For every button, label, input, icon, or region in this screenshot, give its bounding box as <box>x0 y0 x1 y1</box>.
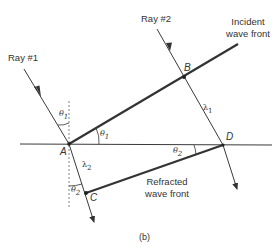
interface-line <box>20 144 272 145</box>
theta2-wavefront-label: θ2 <box>173 147 182 158</box>
point-c-dot <box>84 191 88 195</box>
ray1-incident <box>24 69 69 144</box>
point-a-dot <box>67 142 71 146</box>
incident-wave-front-label: Incident wave front <box>218 17 274 38</box>
point-a-label: A <box>60 147 67 157</box>
refracted-wave-front-label: Refracted wave front <box>137 177 197 198</box>
lambda1-label: λ1 <box>203 104 213 115</box>
theta1-arc-right <box>96 128 99 144</box>
lambda2-label: λ2 <box>82 161 92 172</box>
figure-caption: (b) <box>139 233 150 242</box>
ray2-label: Ray #2 <box>141 14 171 24</box>
point-b-dot <box>182 75 186 79</box>
incident-label-line2: wave front <box>218 29 274 39</box>
ray1-refracted <box>69 144 94 222</box>
incident-label-line1: Incident <box>218 17 274 27</box>
theta1-wavefront-label: θ1 <box>100 130 109 141</box>
refracted-label-line2: wave front <box>137 189 197 199</box>
incident-wave-front-line <box>69 44 238 144</box>
refracted-label-line1: Refracted <box>137 177 197 187</box>
ray2-refracted <box>223 145 237 189</box>
point-c-label: C <box>90 193 97 203</box>
ray1-label: Ray #1 <box>8 53 38 63</box>
refraction-diagram: Ray #1 Ray #2 Incident wave front Refrac… <box>0 0 274 252</box>
theta1-arc-top <box>58 123 69 125</box>
ray1-arrow-icon <box>34 86 41 98</box>
theta2-arc-left <box>194 145 196 155</box>
theta2-normal-label: θ2 <box>71 186 80 197</box>
theta1-normal-label: θ1 <box>59 110 68 121</box>
point-d-label: D <box>226 132 233 142</box>
point-d-dot <box>221 143 224 146</box>
point-b-label: B <box>184 63 191 73</box>
